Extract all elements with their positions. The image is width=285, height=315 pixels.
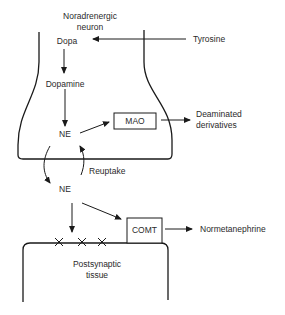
postsynaptic-label-line2: tissue — [86, 270, 108, 280]
arrow-ne-to-mao — [80, 122, 109, 133]
arrow-reuptake — [80, 146, 84, 175]
arrow-ne-to-comt — [82, 203, 121, 219]
arrow-release — [44, 146, 50, 183]
receptor-marks — [55, 238, 106, 246]
neuron-label-line1: Noradrenergic — [63, 11, 118, 21]
reuptake-label: Reuptake — [89, 166, 126, 176]
ne-synaptic-label: NE — [59, 184, 71, 194]
dopa-label: Dopa — [57, 36, 78, 46]
ne-intracellular-label: NE — [59, 129, 71, 139]
noradrenergic-synapse-diagram: Noradrenergic neuron Dopa Tyrosine Dopam… — [0, 0, 285, 315]
dopamine-label: Dopamine — [46, 79, 85, 89]
tyrosine-label: Tyrosine — [193, 34, 225, 44]
neuron-label-line2: neuron — [77, 22, 104, 32]
mao-label: MAO — [125, 116, 145, 126]
normetanephrine-label: Normetanephrine — [200, 224, 266, 234]
comt-label: COMT — [132, 225, 157, 235]
neuron-membrane — [18, 30, 172, 159]
postsynaptic-label-line1: Postsynaptic — [73, 259, 122, 269]
deaminated-label-line2: derivatives — [196, 120, 237, 130]
deaminated-label-line1: Deaminated — [196, 109, 242, 119]
